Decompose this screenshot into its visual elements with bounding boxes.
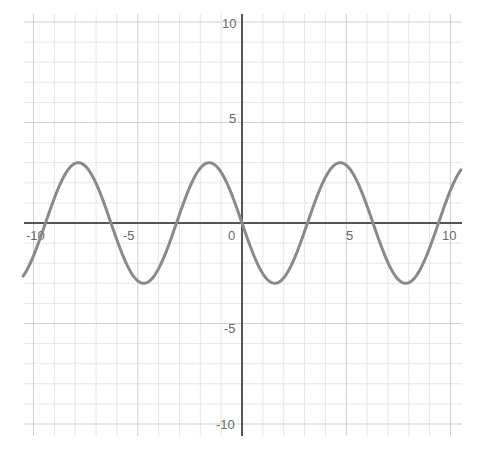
x-tick-label: -5 <box>123 228 135 243</box>
function-graph: -10 -5 0 5 10 10 5 -5 -10 <box>0 0 477 463</box>
y-tick-label: 10 <box>222 16 236 31</box>
y-tick-label: 5 <box>229 111 236 126</box>
x-tick-label: 0 <box>228 228 235 243</box>
x-tick-label: 10 <box>442 228 456 243</box>
x-tick-label: 5 <box>346 228 353 243</box>
y-tick-label: -10 <box>216 417 235 432</box>
y-tick-label: -5 <box>224 321 236 336</box>
